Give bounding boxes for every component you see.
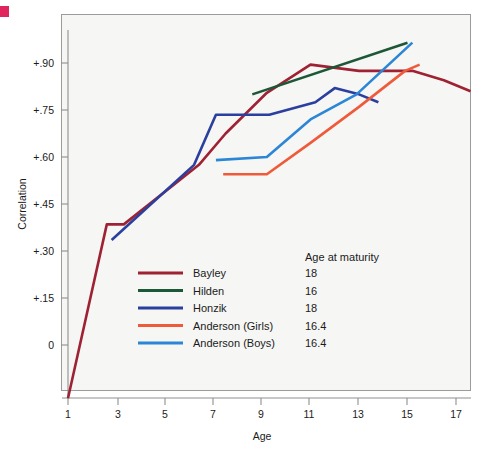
x-tick-label-5: 5 [162,408,168,420]
x-tick-label-15: 15 [401,408,413,420]
y-tick-label-090: +.90 [33,57,54,69]
legend-header-age-at-maturity: Age at maturity [305,251,379,263]
legend-maturity-age-bayley: 18 [305,267,317,279]
y-tick-label-0: 0 [48,339,54,351]
chart-figure: +.90 +.75 +.60 +.45 +.30 +.15 0 1 3 5 7 … [0,0,493,459]
legend-maturity-age-anderson-boys: 16.4 [305,337,326,349]
legend-label-hilden: Hilden [193,285,224,297]
x-tick-label-13: 13 [352,408,364,420]
y-tick-label-015: +.15 [33,292,54,304]
x-tick-label-11: 11 [304,408,315,420]
y-tick-label-075: +.75 [33,104,54,116]
y-tick-label-045: +.45 [33,198,54,210]
x-tick-label-9: 9 [258,408,264,420]
x-tick-label-3: 3 [115,408,121,420]
x-axis-title: Age [253,430,272,442]
legend-label-anderson-boys: Anderson (Boys) [193,337,275,349]
legend-maturity-age-hilden: 16 [305,285,317,297]
chart-canvas: +.90 +.75 +.60 +.45 +.30 +.15 0 1 3 5 7 … [0,0,493,459]
chart-legend: Age at maturity Bayley18Hilden16Honzik18… [138,251,379,349]
x-tick-marks [68,398,456,405]
y-tick-label-060: +.60 [33,151,54,163]
x-tick-label-7: 7 [210,408,216,420]
x-tick-label-1: 1 [65,408,71,420]
y-tick-marks [61,63,68,345]
legend-label-bayley: Bayley [193,267,227,279]
legend-maturity-age-anderson-girls: 16.4 [305,320,326,332]
x-tick-label-17: 17 [450,408,462,420]
y-axis-title: Correlation [16,178,28,230]
y-tick-label-030: +.30 [33,245,54,257]
legend-label-honzik: Honzik [193,302,227,314]
legend-label-anderson-girls: Anderson (Girls) [193,320,273,332]
series-line-honzik [112,88,379,240]
legend-maturity-age-honzik: 18 [305,302,317,314]
